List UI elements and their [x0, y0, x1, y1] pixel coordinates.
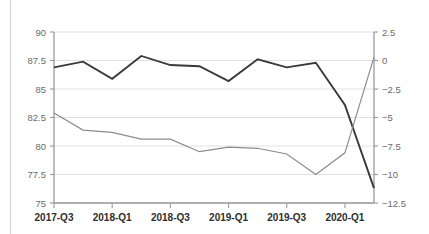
x-axis-tick-label: 2017-Q3	[35, 212, 74, 223]
left-axis-labels: 9087.58582.58077.575	[28, 27, 47, 209]
right-axis-tick-label: −5	[382, 112, 393, 123]
left-axis	[50, 32, 54, 203]
x-axis-labels: 2017-Q32018-Q12018-Q32019-Q12019-Q32020-…	[35, 212, 365, 223]
series-line-primary-level	[54, 56, 374, 188]
x-axis-tick-label: 2018-Q3	[151, 212, 190, 223]
right-axis-labels: 2.50−2.5−5−7.5−10−12.5	[382, 27, 406, 209]
right-axis-tick-label: 2.5	[382, 27, 395, 38]
right-axis-tick-label: −10	[382, 169, 398, 180]
left-axis-tick-label: 82.5	[28, 112, 47, 123]
right-axis-tick-label: 0	[382, 55, 387, 66]
x-axis-tick-label: 2019-Q1	[209, 212, 248, 223]
left-axis-tick-label: 77.5	[28, 169, 47, 180]
bottom-axis	[54, 203, 374, 208]
left-axis-tick-label: 75	[35, 198, 46, 209]
series-group	[54, 56, 374, 188]
right-axis	[374, 32, 378, 203]
left-axis-tick-label: 85	[35, 84, 46, 95]
series-line-secondary-rate	[54, 57, 374, 174]
line-chart: 9087.58582.58077.575 2.50−2.5−5−7.5−10−1…	[0, 0, 429, 234]
gridlines	[54, 32, 374, 203]
left-axis-tick-label: 87.5	[28, 55, 47, 66]
right-axis-tick-label: −12.5	[382, 198, 406, 209]
right-axis-tick-label: −7.5	[382, 141, 401, 152]
left-axis-tick-label: 90	[35, 27, 46, 38]
chart-canvas: 9087.58582.58077.575 2.50−2.5−5−7.5−10−1…	[0, 0, 429, 234]
left-axis-tick-label: 80	[35, 141, 46, 152]
x-axis-tick-label: 2019-Q3	[267, 212, 306, 223]
chart-page: 9087.58582.58077.575 2.50−2.5−5−7.5−10−1…	[0, 0, 429, 234]
x-axis-tick-label: 2018-Q1	[93, 212, 132, 223]
x-axis-tick-label: 2020-Q1	[325, 212, 364, 223]
right-axis-tick-label: −2.5	[382, 84, 401, 95]
